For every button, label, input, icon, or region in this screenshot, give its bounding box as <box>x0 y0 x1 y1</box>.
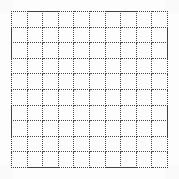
grid-cell[interactable] <box>152 74 168 90</box>
grid-cell[interactable] <box>27 121 43 137</box>
grid-cell[interactable] <box>27 105 43 121</box>
grid-cell[interactable] <box>89 74 105 90</box>
grid-cell[interactable] <box>74 136 90 152</box>
grid-cell[interactable] <box>89 136 105 152</box>
grid-cell[interactable] <box>121 105 137 121</box>
grid-cell[interactable] <box>105 43 121 59</box>
grid-cell[interactable] <box>121 43 137 59</box>
grid-cell[interactable] <box>43 152 59 168</box>
grid-cell[interactable] <box>89 152 105 168</box>
grid-cell[interactable] <box>89 58 105 74</box>
grid-cell[interactable] <box>121 121 137 137</box>
grid-cell[interactable] <box>89 43 105 59</box>
grid-cell[interactable] <box>58 152 74 168</box>
grid-cell[interactable] <box>43 58 59 74</box>
grid-cell[interactable] <box>105 105 121 121</box>
grid-cell[interactable] <box>136 121 152 137</box>
grid-cell[interactable] <box>152 58 168 74</box>
grid-cell[interactable] <box>43 12 59 28</box>
grid-cell[interactable] <box>152 89 168 105</box>
grid-cell[interactable] <box>121 74 137 90</box>
grid-cell[interactable] <box>74 43 90 59</box>
grid-cell[interactable] <box>43 121 59 137</box>
grid-cell[interactable] <box>136 89 152 105</box>
grid-cell[interactable] <box>152 12 168 28</box>
grid-cell[interactable] <box>27 27 43 43</box>
grid-cell[interactable] <box>89 121 105 137</box>
grid-cell[interactable] <box>136 74 152 90</box>
grid-cell[interactable] <box>43 89 59 105</box>
grid-cell[interactable] <box>136 58 152 74</box>
grid-cell[interactable] <box>105 152 121 168</box>
grid-cell[interactable] <box>27 43 43 59</box>
grid-cell[interactable] <box>27 89 43 105</box>
grid-cell[interactable] <box>12 12 28 28</box>
grid-cell[interactable] <box>43 105 59 121</box>
grid-cell[interactable] <box>136 105 152 121</box>
grid-cell[interactable] <box>105 58 121 74</box>
grid-cell[interactable] <box>27 58 43 74</box>
grid-cell[interactable] <box>121 12 137 28</box>
grid-cell[interactable] <box>152 105 168 121</box>
grid-cell[interactable] <box>105 12 121 28</box>
grid-cell[interactable] <box>12 74 28 90</box>
grid-cell[interactable] <box>105 74 121 90</box>
grid-cell[interactable] <box>74 89 90 105</box>
grid-cell[interactable] <box>152 43 168 59</box>
grid-cell[interactable] <box>12 58 28 74</box>
grid-cell[interactable] <box>58 136 74 152</box>
grid-cell[interactable] <box>43 136 59 152</box>
grid-cell[interactable] <box>58 43 74 59</box>
grid-cell[interactable] <box>58 89 74 105</box>
grid-cell[interactable] <box>12 136 28 152</box>
grid-cell[interactable] <box>74 105 90 121</box>
grid-cell[interactable] <box>152 27 168 43</box>
grid-cell[interactable] <box>74 152 90 168</box>
grid-cell[interactable] <box>105 136 121 152</box>
grid-cell[interactable] <box>121 152 137 168</box>
grid-cell[interactable] <box>136 43 152 59</box>
grid-cell[interactable] <box>136 152 152 168</box>
grid-cell[interactable] <box>74 27 90 43</box>
grid-cell[interactable] <box>74 121 90 137</box>
grid-cell[interactable] <box>74 74 90 90</box>
grid-cell[interactable] <box>27 136 43 152</box>
grid-cell[interactable] <box>152 152 168 168</box>
grid-cell[interactable] <box>12 43 28 59</box>
grid-cell[interactable] <box>121 58 137 74</box>
grid-cell[interactable] <box>152 121 168 137</box>
grid-cell[interactable] <box>152 136 168 152</box>
grid-table[interactable] <box>11 11 168 168</box>
grid-cell[interactable] <box>58 12 74 28</box>
grid-cell[interactable] <box>43 74 59 90</box>
grid-cell[interactable] <box>58 105 74 121</box>
grid-cell[interactable] <box>105 27 121 43</box>
grid-cell[interactable] <box>121 27 137 43</box>
grid-cell[interactable] <box>12 105 28 121</box>
grid-cell[interactable] <box>136 12 152 28</box>
grid-cell[interactable] <box>27 74 43 90</box>
grid-cell[interactable] <box>89 89 105 105</box>
grid-cell[interactable] <box>136 136 152 152</box>
grid-cell[interactable] <box>121 89 137 105</box>
grid-cell[interactable] <box>58 58 74 74</box>
grid-cell[interactable] <box>27 152 43 168</box>
grid-cell[interactable] <box>58 74 74 90</box>
grid-cell[interactable] <box>12 27 28 43</box>
grid-cell[interactable] <box>89 105 105 121</box>
grid-cell[interactable] <box>136 27 152 43</box>
grid-cell[interactable] <box>105 121 121 137</box>
grid-cell[interactable] <box>58 27 74 43</box>
dotted-grid[interactable] <box>11 11 168 168</box>
grid-cell[interactable] <box>74 12 90 28</box>
grid-cell[interactable] <box>121 136 137 152</box>
grid-cell[interactable] <box>27 12 43 28</box>
grid-cell[interactable] <box>74 58 90 74</box>
grid-cell[interactable] <box>12 89 28 105</box>
grid-cell[interactable] <box>89 12 105 28</box>
grid-cell[interactable] <box>43 43 59 59</box>
grid-cell[interactable] <box>105 89 121 105</box>
grid-cell[interactable] <box>12 152 28 168</box>
grid-cell[interactable] <box>43 27 59 43</box>
grid-cell[interactable] <box>58 121 74 137</box>
